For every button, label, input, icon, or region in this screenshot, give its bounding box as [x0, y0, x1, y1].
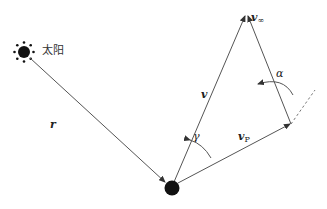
- planet-body: [165, 181, 180, 196]
- label-r: r: [50, 119, 56, 130]
- label-gamma: γ: [193, 131, 200, 142]
- label-alpha: α: [276, 68, 283, 79]
- label-v-infinity: v∞: [251, 12, 264, 25]
- label-v: v: [201, 89, 207, 100]
- velocity-vector-v: [174, 16, 245, 182]
- label-v-planet: vP: [238, 131, 250, 144]
- sun-label: 太阳: [42, 45, 64, 56]
- velocity-vector-v-infinity: [248, 16, 291, 124]
- dashed-extension-line: [291, 90, 315, 124]
- angle-alpha-arc: [258, 82, 293, 95]
- diagram-canvas: [0, 0, 327, 209]
